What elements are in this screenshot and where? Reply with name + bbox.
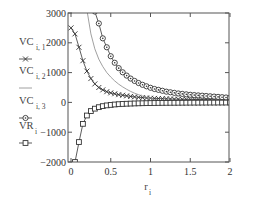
x-tick-label: 1.5 [184, 166, 197, 177]
y-tick-label: 1000 [46, 67, 66, 78]
diamond-marker-center [193, 94, 195, 96]
diamond-marker-center [114, 62, 116, 64]
diamond-marker-center [102, 38, 104, 40]
diamond-marker-center [142, 84, 144, 86]
diamond-marker-center [146, 86, 148, 88]
series-line [95, 12, 230, 98]
legend-label: VC [19, 36, 34, 47]
diamond-marker-center [170, 91, 172, 93]
y-tick-label: 2000 [46, 37, 66, 48]
x-label-subscript: i [149, 188, 151, 197]
diamond-marker-center [189, 94, 191, 96]
legend-subscript: i, 2 [36, 72, 46, 81]
y-tick-label: −1000 [40, 127, 66, 138]
legend-subscript: i, 1 [36, 43, 46, 52]
diamond-marker-center [182, 93, 184, 95]
series-vc-3 [92, 9, 232, 100]
x-marker-icon [72, 31, 77, 36]
legend-label: VC [19, 95, 34, 106]
diamond-marker-center [138, 82, 140, 84]
diamond-marker-center [174, 92, 176, 94]
x-marker-icon [76, 45, 81, 50]
diamond-marker-center [25, 117, 27, 119]
diamond-marker-center [205, 95, 207, 97]
diamond-marker-icon [227, 95, 232, 100]
chart: VCi, 1VCi, 2VCi, 3VRi 3000200010000−1000… [0, 0, 254, 205]
diamond-marker-center [154, 88, 156, 90]
legend-label: VC [19, 65, 34, 76]
plot-area [69, 0, 233, 182]
series-vc-2 [85, 0, 231, 102]
square-marker-icon [81, 121, 86, 126]
legend-subscript: i, 3 [36, 102, 46, 111]
diamond-marker-center [122, 72, 124, 74]
y-axis: 3000200010000−1000−2000 [40, 8, 229, 168]
x-marker-icon [84, 69, 89, 74]
x-marker-icon [80, 58, 85, 63]
legend-item: VRi [19, 120, 37, 145]
series-line [85, 0, 231, 102]
legend-label: VR [19, 120, 34, 131]
diamond-marker-center [130, 78, 132, 80]
x-tick-label: 1 [148, 166, 153, 177]
legend-item: VCi, 2 [19, 65, 46, 88]
diamond-marker-center [201, 95, 203, 97]
diamond-marker-center [225, 97, 227, 99]
diamond-marker-center [185, 94, 187, 96]
legend-subscript: i [35, 127, 37, 136]
diamond-marker-center [217, 96, 219, 98]
x-marker-icon [88, 76, 93, 81]
x-tick-label: 0.5 [105, 166, 118, 177]
x-marker-icon [69, 25, 74, 30]
diamond-marker-center [150, 87, 152, 89]
y-tick-label: 3000 [46, 8, 66, 19]
diamond-marker-center [213, 96, 215, 98]
x-tick-label: 0 [69, 166, 74, 177]
diamond-marker-center [209, 95, 211, 97]
diamond-marker-center [134, 80, 136, 82]
diamond-marker-center [126, 75, 128, 77]
y-tick-label: −2000 [40, 157, 66, 168]
series-vc-1 [69, 25, 233, 102]
x-label-text: r [144, 181, 148, 192]
square-marker-icon [77, 140, 82, 145]
diamond-marker-center [162, 90, 164, 92]
diamond-marker-center [118, 67, 120, 69]
legend-item: VCi, 1 [19, 36, 46, 62]
diamond-marker-center [110, 55, 112, 57]
diamond-marker-center [221, 96, 223, 98]
diamond-marker-center [94, 11, 96, 13]
square-marker-icon [23, 141, 28, 146]
diamond-marker-center [197, 95, 199, 97]
x-tick-label: 2 [228, 166, 233, 177]
diamond-marker-center [166, 91, 168, 93]
diamond-marker-center [106, 46, 108, 48]
x-axis-label: ri [144, 181, 151, 197]
legend-item: VCi, 3 [19, 95, 46, 121]
square-marker-icon [228, 100, 233, 105]
diamond-marker-center [158, 89, 160, 91]
y-tick-label: 0 [61, 97, 66, 108]
diamond-marker-center [178, 93, 180, 95]
diamond-marker-center [98, 23, 100, 25]
